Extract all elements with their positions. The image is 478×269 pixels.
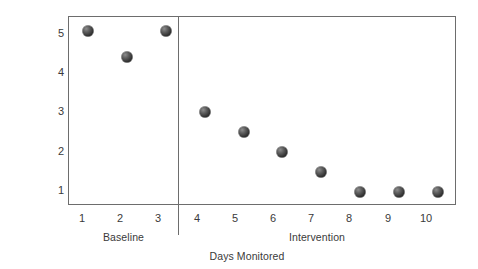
x-tick-label-9: 9 [373, 212, 403, 224]
x-tick-label-7: 7 [296, 212, 326, 224]
data-point [393, 186, 404, 197]
data-point [238, 126, 249, 137]
data-point [122, 52, 133, 63]
y-tick-label-4: 4 [42, 66, 64, 78]
phase-label-baseline: Baseline [69, 231, 178, 244]
data-point [277, 146, 288, 157]
data-point [316, 166, 327, 177]
y-tick-label-2: 2 [42, 145, 64, 157]
data-point [199, 106, 210, 117]
data-point [432, 186, 443, 197]
y-tick-label-1: 1 [42, 184, 64, 196]
x-tick-label-6: 6 [258, 212, 288, 224]
x-tick-label-8: 8 [334, 212, 364, 224]
x-tick-label-4: 4 [182, 212, 212, 224]
x-tick-label-2: 2 [105, 212, 135, 224]
y-tick-label-3: 3 [42, 105, 64, 117]
plot-area [68, 16, 456, 205]
single-case-design-scatter-chart: Behaviors 5 4 3 2 1 1 2 3 4 5 6 7 8 9 10… [0, 0, 478, 269]
y-tick-label-5: 5 [42, 27, 64, 39]
data-point [83, 26, 94, 37]
data-point [161, 26, 172, 37]
phase-label-intervention: Intervention [178, 231, 456, 244]
x-tick-label-10: 10 [411, 212, 441, 224]
x-axis-title: Days Monitored [108, 249, 386, 263]
phase-change-line [178, 16, 179, 235]
x-tick-label-3: 3 [143, 212, 173, 224]
data-point [355, 186, 366, 197]
x-tick-label-1: 1 [67, 212, 97, 224]
x-tick-label-5: 5 [220, 212, 250, 224]
